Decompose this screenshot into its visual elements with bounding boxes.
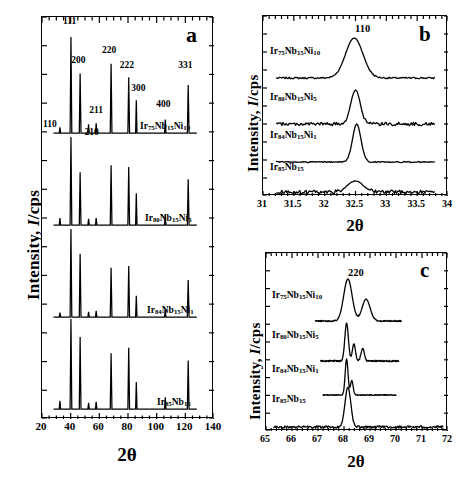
- peak-index-label: 200: [71, 56, 85, 66]
- trace-label: Ir75Nb15Ni10: [140, 122, 190, 132]
- peak-index-label: 400: [156, 100, 170, 110]
- peak-index-label: 111: [63, 17, 76, 27]
- trace-label: Ir80Nb15Ni5: [145, 214, 192, 224]
- trace-label: Ir75Nb15Ni10: [270, 47, 320, 57]
- trace-label: Ir85Nb15: [270, 163, 304, 173]
- panel-a-letter: a: [186, 22, 197, 48]
- x-tick-label: 34: [427, 199, 457, 209]
- trace-label: Ir85Nb15: [157, 398, 191, 408]
- trace-label: Ir84Nb15Ni1: [147, 306, 194, 316]
- trace-label: Ir84Nb15Ni1: [272, 365, 319, 375]
- panel-a-x-axis-label: 2θ: [87, 444, 167, 466]
- trace-label: Ir80Nb15Ni5: [270, 93, 317, 103]
- panel-c-x-axis-label: 2θ: [316, 452, 396, 472]
- peak-index-label: 110: [43, 120, 57, 130]
- trace-label: Ir75Nb15Ni10: [272, 291, 322, 301]
- peak-index-label: 331: [178, 61, 192, 71]
- figure-root: Intensity, I/cps a 110111200210211220222…: [0, 0, 457, 478]
- x-tick-label: 72: [427, 434, 457, 444]
- panel-c-letter: c: [420, 258, 429, 283]
- peak-index-label: 210: [85, 128, 99, 138]
- peak-index-label: 300: [131, 84, 145, 94]
- panel-b-x-axis-label: 2θ: [315, 216, 395, 236]
- peak-index-label: 220: [348, 268, 364, 279]
- peak-index-label: 222: [120, 61, 134, 71]
- trace-label: Ir80Nb15Ni5: [272, 331, 319, 341]
- peak-index-label: 110: [355, 24, 370, 35]
- peak-index-label: 211: [89, 106, 103, 116]
- panel-c-y-axis-label: Intensity, I/cps: [247, 323, 264, 420]
- x-tick-label: 140: [193, 421, 233, 432]
- peak-index-label: 220: [102, 46, 116, 56]
- trace-label: Ir85Nb15: [272, 395, 306, 405]
- panel-b-letter: b: [419, 22, 431, 47]
- trace-label: Ir84Nb15Ni1: [270, 131, 317, 141]
- panel-b-y-axis-label: Intensity, I/cps: [245, 75, 262, 172]
